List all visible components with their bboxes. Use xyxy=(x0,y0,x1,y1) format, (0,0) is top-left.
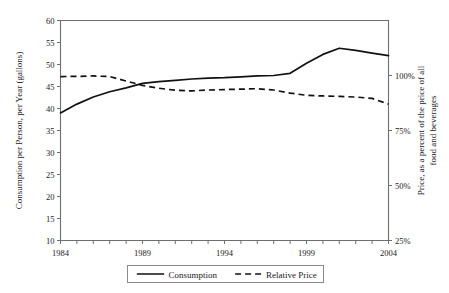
y-axis-tick-label: 20 xyxy=(46,192,55,202)
series-line-consumption xyxy=(61,48,389,113)
chart-container: 101520253035404550556025%50%75%100%19841… xyxy=(0,0,449,293)
y2-axis-tick-label: 100% xyxy=(395,71,415,81)
y2-axis-tick-label: 25% xyxy=(395,236,411,246)
line-chart: 101520253035404550556025%50%75%100%19841… xyxy=(0,0,449,293)
series-line-relative-price xyxy=(61,76,389,104)
y2-axis-tick-label: 50% xyxy=(395,181,411,191)
x-axis-tick-label: 2004 xyxy=(380,248,398,258)
y-axis-tick-label: 30 xyxy=(46,148,55,158)
y-axis-tick-label: 35 xyxy=(46,126,55,136)
y-axis-tick-label: 10 xyxy=(46,236,55,246)
y-axis-tick-label: 25 xyxy=(46,170,55,180)
y-axis-tick-label: 60 xyxy=(46,16,55,26)
x-axis-tick-label: 1994 xyxy=(216,248,234,258)
y-axis-tick-label: 55 xyxy=(46,38,55,48)
x-axis-tick-label: 1989 xyxy=(134,248,151,258)
y2-axis-tick-label: 75% xyxy=(395,126,411,136)
legend-label-relative-price: Relative Price xyxy=(266,270,317,280)
plot-frame xyxy=(61,21,389,241)
y2-axis-title-line1: Price, as a percent of the price of all xyxy=(416,65,426,195)
legend-label-consumption: Consumption xyxy=(169,270,218,280)
y-axis-tick-label: 15 xyxy=(46,214,55,224)
y-axis-tick-label: 50 xyxy=(46,60,55,70)
y-axis-title: Consumption per Person, per Year (gallon… xyxy=(14,52,24,210)
y-axis-tick-label: 40 xyxy=(46,104,55,114)
x-axis-tick-label: 1999 xyxy=(298,248,315,258)
y2-axis-title-line2: food and beverages xyxy=(428,95,438,165)
y-axis-tick-label: 45 xyxy=(46,82,55,92)
x-axis-tick-label: 1984 xyxy=(52,248,70,258)
